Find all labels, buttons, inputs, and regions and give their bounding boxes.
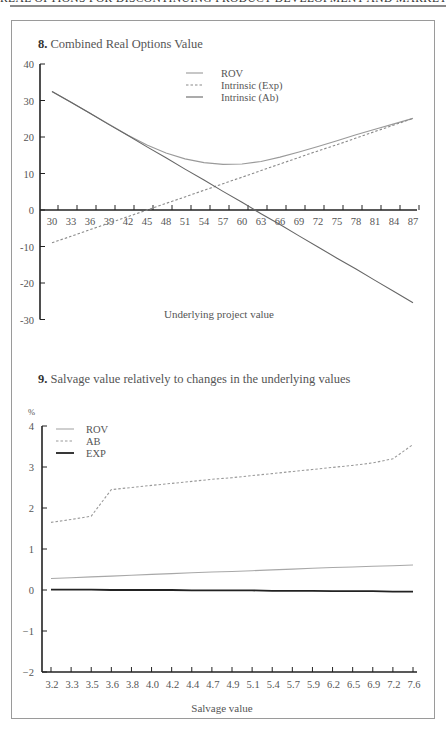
y-tick-label: 0	[29, 585, 34, 596]
x-tick-label: 6.9	[367, 679, 380, 690]
x-axis-label: Salvage value	[191, 702, 253, 714]
x-tick-label: 5.7	[287, 679, 300, 690]
x-tick-label: 4.4	[186, 679, 200, 690]
y-unit-label: %	[28, 407, 35, 417]
y-tick-label: 2	[29, 503, 34, 514]
x-tick-label: 5.9	[307, 679, 320, 690]
chart-salvage-value: %43210−1−23.23.33.53.63.84.04.24.44.74.9…	[0, 0, 446, 733]
legend-label: EXP	[86, 448, 106, 459]
x-tick-label: 7.6	[407, 679, 420, 690]
x-tick-label: 5.4	[267, 679, 281, 690]
x-tick-label: 3.3	[66, 679, 79, 690]
y-tick-label: −2	[23, 667, 34, 678]
x-tick-label: 6.2	[327, 679, 340, 690]
x-tick-label: 3.5	[86, 679, 99, 690]
x-tick-label: 3.2	[45, 679, 58, 690]
legend-label: ROV	[86, 424, 109, 435]
x-tick-label: 5.1	[247, 679, 260, 690]
x-tick-label: 4.7	[206, 679, 219, 690]
y-tick-label: 1	[29, 544, 34, 555]
x-tick-label: 7.2	[387, 679, 400, 690]
series-exp	[51, 590, 413, 592]
y-tick-label: 3	[29, 462, 34, 473]
y-tick-label: −1	[23, 626, 34, 637]
x-tick-label: 3.6	[106, 679, 119, 690]
x-tick-label: 6.5	[347, 679, 360, 690]
x-tick-label: 4.9	[226, 679, 239, 690]
legend-label: AB	[86, 436, 101, 447]
x-tick-label: 4.2	[166, 679, 179, 690]
x-tick-label: 3.8	[126, 679, 139, 690]
series-rov	[51, 565, 413, 579]
y-tick-label: 4	[29, 421, 35, 432]
x-tick-label: 4.0	[146, 679, 159, 690]
